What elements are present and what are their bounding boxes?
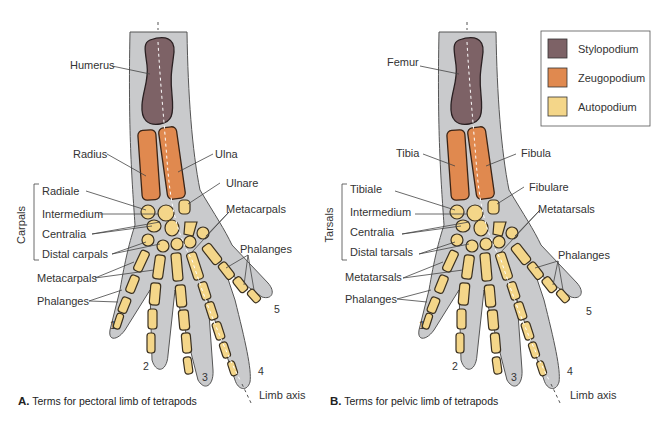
- label-phalanges-right: Phalanges: [240, 243, 292, 255]
- legend-label-autopodium: Autopodium: [578, 101, 637, 113]
- label-metacarpals-right: Metacarpals: [226, 203, 286, 215]
- caption-a: A. Terms for pectoral limb of tetrapods: [18, 395, 197, 407]
- label-metatarsals-left: Metatarsals: [345, 271, 402, 283]
- label-centralia-b: Centralia: [350, 226, 395, 238]
- label-radiale: Radiale: [42, 185, 79, 197]
- digit-number-5: 5: [274, 303, 280, 315]
- tarsals-group-label: Tarsals: [323, 207, 335, 242]
- digit-number-3: 3: [202, 371, 208, 383]
- label-intermedium-b: Intermedium: [350, 206, 411, 218]
- label-radius: Radius: [73, 148, 108, 160]
- legend-swatch-zeugopodium: [548, 68, 567, 87]
- panel-a-pectoral-limb: Carpals Humerus Radius Ulna Radiale Ulna…: [15, 22, 306, 407]
- digit-number-5-b: 5: [586, 305, 592, 317]
- digit-number-4-b: 4: [567, 365, 573, 377]
- legend-label-stylopodium: Stylopodium: [578, 43, 639, 55]
- label-intermedium: Intermedium: [42, 208, 103, 220]
- label-femur: Femur: [387, 56, 419, 68]
- digit-number-1: 1: [110, 319, 116, 331]
- label-tibia: Tibia: [396, 147, 420, 159]
- label-fibula: Fibula: [521, 147, 552, 159]
- label-metatarsals-right: Metatarsals: [538, 203, 595, 215]
- caption-b-text: Terms for pelvic limb of tetrapods: [344, 395, 498, 407]
- label-distal-carpals: Distal carpals: [42, 248, 109, 260]
- digit-number-4: 4: [258, 365, 264, 377]
- caption-b-letter: B.: [330, 395, 342, 407]
- label-limb-axis: Limb axis: [259, 389, 306, 401]
- digit-number-2: 2: [143, 360, 149, 372]
- caption-b: B. Terms for pelvic limb of tetrapods: [330, 395, 498, 407]
- digit-number-2-b: 2: [452, 360, 458, 372]
- label-fibulare: Fibulare: [529, 181, 569, 193]
- label-phalanges-left-b: Phalanges: [345, 293, 397, 305]
- legend-swatch-autopodium: [548, 97, 567, 116]
- label-limb-axis-b: Limb axis: [570, 389, 617, 401]
- label-centralia: Centralia: [42, 228, 87, 240]
- legend-label-zeugopodium: Zeugopodium: [578, 72, 645, 84]
- label-humerus: Humerus: [70, 59, 115, 71]
- label-phalanges-left: Phalanges: [37, 295, 89, 307]
- carpals-group-label: Carpals: [15, 206, 27, 244]
- legend-swatch-stylopodium: [548, 39, 567, 58]
- label-tibiale: Tibiale: [350, 183, 382, 195]
- caption-a-text: Terms for pectoral limb of tetrapods: [32, 395, 197, 407]
- label-ulnare: Ulnare: [226, 177, 258, 189]
- label-metacarpals-left: Metacarpals: [37, 272, 97, 284]
- label-phalanges-right-b: Phalanges: [558, 249, 610, 261]
- digit-number-1-b: 1: [419, 319, 425, 331]
- limb-diagram: Carpals Humerus Radius Ulna Radiale Ulna…: [0, 0, 666, 423]
- digit-number-3-b: 3: [511, 371, 517, 383]
- caption-a-letter: A.: [18, 395, 30, 407]
- label-distal-tarsals: Distal tarsals: [350, 246, 413, 258]
- label-ulna: Ulna: [215, 148, 239, 160]
- legend: Stylopodium Zeugopodium Autopodium: [541, 31, 650, 126]
